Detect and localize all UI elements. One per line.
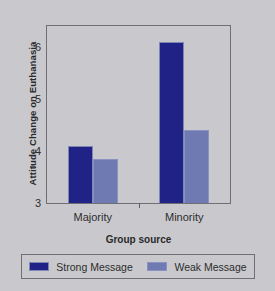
legend-swatch-strong-message	[29, 262, 49, 271]
legend-label-weak-message: Weak Message	[174, 261, 246, 273]
y-tick-mark	[30, 166, 35, 167]
y-tick-label: 6	[35, 41, 47, 53]
x-category-label-majority: Majority	[73, 211, 112, 223]
bar-chart-figure: Attitude Change on Euthanasia 3456 Major…	[0, 0, 275, 291]
y-tick-label: 5	[35, 93, 47, 105]
legend-label-strong-message: Strong Message	[56, 261, 132, 273]
y-tick-label: 4	[35, 145, 47, 157]
y-tick-mark	[30, 62, 35, 63]
x-tick-mark	[139, 203, 140, 208]
y-tick-label: 3	[35, 197, 47, 209]
chart-legend: Strong Message Weak Message	[21, 254, 255, 279]
legend-item-strong-message: Strong Message	[29, 261, 132, 273]
legend-swatch-weak-message	[147, 262, 167, 271]
legend-item-weak-message: Weak Message	[147, 261, 246, 273]
x-category-label-minority: Minority	[165, 211, 204, 223]
bar-minority-strong	[159, 42, 184, 203]
bar-minority-weak	[184, 130, 209, 203]
plot-area: 3456 MajorityMinority	[46, 25, 231, 204]
bar-majority-weak	[93, 159, 118, 203]
bar-majority-strong	[68, 146, 93, 203]
x-axis-title: Group source	[46, 234, 231, 245]
